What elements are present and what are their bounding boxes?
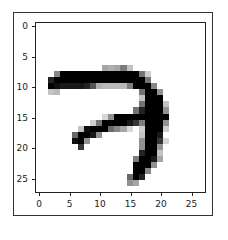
y-tick-15 — [32, 118, 36, 119]
x-tick-label: 0 — [36, 199, 42, 209]
y-tick-25 — [32, 179, 36, 180]
x-tick-label: 15 — [125, 199, 136, 209]
y-tick-10 — [32, 87, 36, 88]
x-tick-label: 25 — [186, 199, 197, 209]
x-tick-15 — [131, 192, 132, 196]
y-tick-label: 20 — [17, 143, 28, 153]
x-tick-label: 5 — [67, 199, 73, 209]
x-tick-label: 20 — [155, 199, 166, 209]
y-tick-label: 0 — [22, 21, 28, 31]
x-tick-20 — [161, 192, 162, 196]
y-tick-label: 15 — [17, 113, 28, 123]
x-tick-25 — [192, 192, 193, 196]
y-tick-5 — [32, 57, 36, 58]
pixel — [199, 186, 205, 192]
y-tick-20 — [32, 148, 36, 149]
x-tick-0 — [39, 192, 40, 196]
y-tick-label: 5 — [22, 52, 28, 62]
x-tick-5 — [70, 192, 71, 196]
x-tick-label: 10 — [94, 199, 105, 209]
x-tick-10 — [100, 192, 101, 196]
pixel-grid — [36, 23, 205, 192]
y-tick-0 — [32, 26, 36, 27]
image-axes: 0 5 10 15 20 25 0 5 10 15 20 25 — [35, 22, 206, 193]
y-tick-label: 10 — [17, 82, 28, 92]
y-tick-label: 25 — [17, 174, 28, 184]
